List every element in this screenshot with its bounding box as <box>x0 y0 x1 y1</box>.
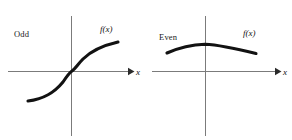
odd-panel-title: Odd <box>14 29 30 39</box>
even-x-axis-arrowhead <box>275 68 282 75</box>
even-panel-title: Even <box>159 32 178 42</box>
figure-container: Odd f(x) x Even f(x) x <box>0 0 292 140</box>
odd-function-label: f(x) <box>100 24 113 34</box>
even-x-axis-label: x <box>282 67 287 77</box>
figure-svg: Odd f(x) x Even f(x) x <box>0 0 292 140</box>
odd-x-axis-label: x <box>135 67 140 77</box>
odd-x-axis-arrowhead <box>128 68 135 75</box>
panel-odd: Odd f(x) x <box>8 16 140 136</box>
panel-even: Even f(x) x <box>152 16 287 136</box>
even-function-curve <box>167 44 256 53</box>
even-function-label: f(x) <box>243 28 256 38</box>
